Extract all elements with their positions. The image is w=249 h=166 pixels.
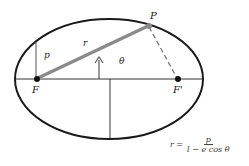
label-p: p — [44, 50, 50, 60]
other-focus-point — [175, 76, 181, 82]
label-theta: θ — [119, 56, 125, 66]
radius-line — [38, 26, 148, 78]
label-F: F — [31, 84, 40, 95]
polar-equation: r = p l − e cos θ — [170, 135, 230, 154]
formula-numerator: p — [204, 135, 213, 145]
focus-point — [34, 76, 40, 82]
label-r: r — [83, 38, 88, 48]
formula-lhs: r = — [170, 140, 183, 149]
formula-fraction: p l − e cos θ — [186, 135, 230, 154]
formula-denominator: l − e cos θ — [186, 145, 230, 154]
label-F-prime: F' — [172, 84, 183, 95]
angle-arrow-icon — [95, 57, 103, 79]
label-P: P — [149, 10, 157, 21]
point-p — [146, 23, 152, 29]
